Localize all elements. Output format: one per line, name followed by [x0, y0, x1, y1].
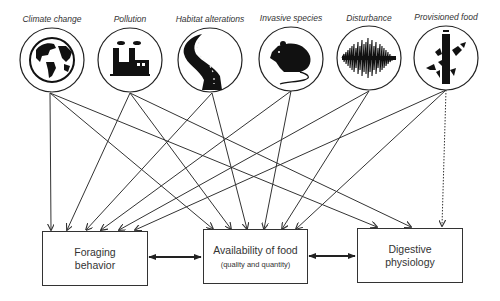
box-foraging-line1: Foraging	[74, 246, 115, 259]
driver-label-provisioned: Provisioned food	[401, 12, 491, 22]
edge-disturbance-foraging	[119, 91, 369, 230]
box-digestive-line2: physiology	[385, 256, 435, 269]
box-availability-sub: (quality and quantity)	[221, 259, 291, 270]
edge-climate-foraging	[50, 93, 51, 230]
edge-habitat-foraging	[86, 93, 212, 230]
edge-pollution-digestive	[130, 93, 411, 227]
edge-invasive-availability	[264, 91, 291, 229]
edge-pollution-foraging	[67, 93, 130, 230]
driver-label-climate: Climate change	[7, 14, 97, 24]
box-foraging-line2: behavior	[75, 259, 115, 272]
driver-label-invasive: Invasive species	[246, 13, 336, 23]
edges	[50, 90, 446, 230]
edge-provisioned-digestive-dotted	[442, 90, 446, 226]
box-digestive-line1: Digestive	[388, 243, 431, 256]
driver-label-pollution: Pollution	[85, 14, 175, 24]
edge-invasive-foraging	[101, 91, 291, 230]
box-foraging-behavior: Foraging behavior	[42, 231, 148, 286]
box-digestive-physiology: Digestive physiology	[357, 228, 463, 283]
globe-icon	[30, 38, 74, 82]
edge-provisioned-foraging	[135, 90, 446, 230]
driver-circles	[20, 26, 478, 92]
edge-climate-availability	[50, 93, 213, 229]
box-availability-of-food: Availability of food (quality and quanti…	[203, 229, 308, 284]
driver-label-habitat: Habitat alterations	[165, 14, 255, 24]
box-availability-line1: Availability of food	[213, 244, 297, 257]
edge-disturbance-availability	[282, 91, 369, 229]
